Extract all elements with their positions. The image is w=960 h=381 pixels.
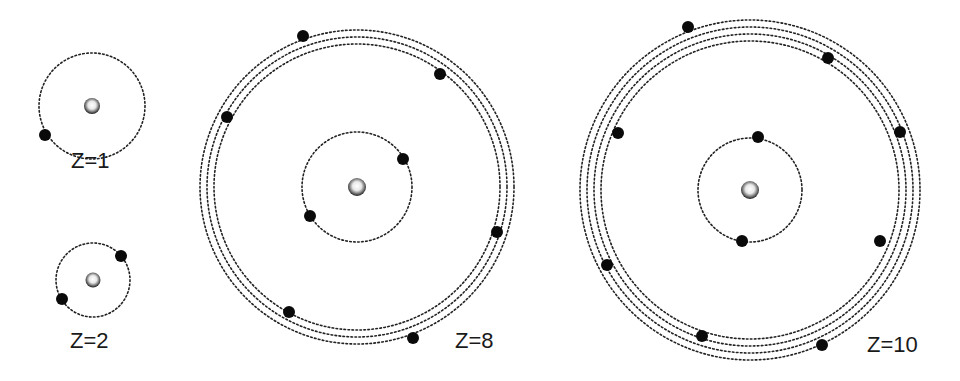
nucleus-icon <box>348 178 366 196</box>
atom-z1 <box>39 53 145 159</box>
atom-z10 <box>580 20 920 360</box>
electron-icon <box>283 306 295 318</box>
electron-icon <box>221 111 233 123</box>
electron-icon <box>752 131 764 143</box>
electron-icon <box>612 127 624 139</box>
electron-icon <box>874 235 886 247</box>
atom-label-z2: Z=2 <box>70 330 109 352</box>
atom-diagram: Z=1 Z=2 Z=8 Z=10 <box>0 0 960 381</box>
nucleus-icon <box>84 98 100 114</box>
electron-icon <box>56 293 68 305</box>
electron-icon <box>736 235 748 247</box>
electron-icon <box>696 330 708 342</box>
atom-diagram-canvas <box>0 0 960 381</box>
electron-icon <box>115 250 127 262</box>
nucleus-icon <box>741 181 759 199</box>
electron-icon <box>816 339 828 351</box>
electron-icon <box>407 332 419 344</box>
electron-icon <box>304 210 316 222</box>
atom-label-z10: Z=10 <box>867 334 918 356</box>
electron-icon <box>601 259 613 271</box>
atom-label-z8: Z=8 <box>455 330 494 352</box>
electron-icon <box>822 52 834 64</box>
electron-icon <box>39 129 51 141</box>
electron-icon <box>894 126 906 138</box>
electron-icon <box>397 153 409 165</box>
atom-z8 <box>200 30 514 344</box>
nucleus-icon <box>86 273 101 288</box>
atom-label-z1: Z=1 <box>71 150 110 172</box>
electron-icon <box>682 21 694 33</box>
electron-icon <box>297 30 309 42</box>
electron-icon <box>491 226 503 238</box>
electron-icon <box>434 68 446 80</box>
atom-z2 <box>56 243 130 317</box>
